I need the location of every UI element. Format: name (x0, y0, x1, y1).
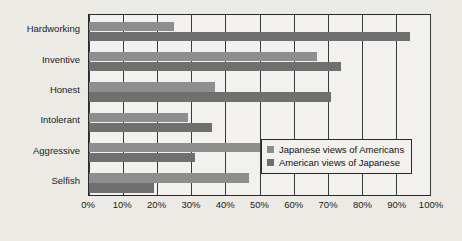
gridline-100 (430, 15, 431, 195)
bar (89, 123, 212, 133)
bar (89, 92, 331, 102)
bar (89, 62, 341, 72)
x-tick-label: 30% (181, 199, 200, 210)
x-tick-label: 20% (147, 199, 166, 210)
x-tick-label: 90% (387, 199, 406, 210)
y-tick-label: Hardworking (0, 23, 80, 34)
y-tick-label: Aggressive (0, 145, 80, 156)
x-tick-label: 0% (81, 199, 95, 210)
bar (89, 153, 195, 163)
y-tick-label: Selfish (0, 175, 80, 186)
chart-legend: Japanese views of Americans American vie… (261, 139, 412, 174)
bar (89, 173, 249, 183)
x-tick-label: 80% (353, 199, 372, 210)
x-tick-label: 10% (113, 199, 132, 210)
bar (89, 82, 215, 92)
bar (89, 143, 260, 153)
x-tick-label: 100% (419, 199, 443, 210)
legend-swatch-icon (267, 146, 274, 153)
y-axis-category-labels: HardworkingInventiveHonestIntolerantAggr… (0, 14, 84, 196)
bar (89, 22, 174, 32)
bar (89, 52, 317, 62)
bar-group (89, 15, 430, 45)
legend-item: Japanese views of Americans (267, 143, 404, 156)
legend-label: American views of Japanese (279, 156, 400, 169)
bar-group (89, 106, 430, 136)
bar (89, 113, 188, 123)
bar-group (89, 45, 430, 75)
x-tick-label: 70% (319, 199, 338, 210)
y-tick-label: Inventive (0, 54, 80, 65)
plot-area: Japanese views of Americans American vie… (88, 14, 431, 196)
x-tick-label: 50% (250, 199, 269, 210)
bar-chart-figure: HardworkingInventiveHonestIntolerantAggr… (0, 0, 462, 241)
legend-item: American views of Japanese (267, 156, 404, 169)
bar (89, 32, 410, 42)
legend-label: Japanese views of Americans (279, 143, 404, 156)
y-tick-label: Honest (0, 84, 80, 95)
legend-swatch-icon (267, 159, 274, 166)
bar-group (89, 76, 430, 106)
bar (89, 183, 154, 193)
x-axis-tick-labels: 0%10%20%30%40%50%60%70%80%90%100% (88, 199, 431, 215)
x-tick-label: 60% (284, 199, 303, 210)
y-tick-label: Intolerant (0, 114, 80, 125)
x-tick-label: 40% (216, 199, 235, 210)
